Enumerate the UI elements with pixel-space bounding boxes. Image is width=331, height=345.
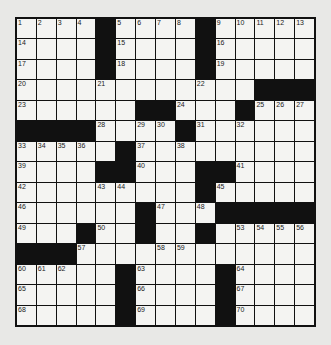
crossword-cell[interactable] <box>156 142 175 161</box>
crossword-cell[interactable] <box>96 285 115 304</box>
crossword-cell[interactable]: 40 <box>136 162 155 181</box>
crossword-cell[interactable] <box>255 142 274 161</box>
crossword-cell[interactable] <box>176 224 195 243</box>
crossword-cell[interactable] <box>156 183 175 202</box>
crossword-cell[interactable] <box>37 224 56 243</box>
crossword-cell[interactable] <box>275 162 294 181</box>
crossword-cell[interactable]: 50 <box>96 224 115 243</box>
crossword-cell[interactable]: 45 <box>216 183 235 202</box>
crossword-cell[interactable] <box>295 162 314 181</box>
crossword-cell[interactable]: 61 <box>37 265 56 284</box>
crossword-cell[interactable] <box>116 101 135 120</box>
crossword-cell[interactable]: 47 <box>156 203 175 222</box>
crossword-cell[interactable] <box>295 306 314 325</box>
crossword-cell[interactable]: 29 <box>136 121 155 140</box>
crossword-cell[interactable]: 12 <box>275 19 294 38</box>
crossword-cell[interactable] <box>275 39 294 58</box>
crossword-cell[interactable]: 2 <box>37 19 56 38</box>
crossword-cell[interactable]: 22 <box>196 80 215 99</box>
crossword-cell[interactable] <box>236 80 255 99</box>
crossword-cell[interactable]: 68 <box>17 306 36 325</box>
crossword-cell[interactable] <box>295 285 314 304</box>
crossword-cell[interactable]: 4 <box>77 19 96 38</box>
crossword-cell[interactable]: 39 <box>17 162 36 181</box>
crossword-cell[interactable] <box>196 244 215 263</box>
crossword-cell[interactable] <box>275 60 294 79</box>
crossword-cell[interactable]: 35 <box>57 142 76 161</box>
crossword-cell[interactable] <box>37 183 56 202</box>
crossword-cell[interactable] <box>156 39 175 58</box>
crossword-cell[interactable] <box>57 101 76 120</box>
crossword-cell[interactable] <box>156 162 175 181</box>
crossword-cell[interactable] <box>57 39 76 58</box>
crossword-cell[interactable]: 33 <box>17 142 36 161</box>
crossword-cell[interactable] <box>275 142 294 161</box>
crossword-cell[interactable] <box>275 285 294 304</box>
crossword-cell[interactable] <box>37 80 56 99</box>
crossword-cell[interactable] <box>156 285 175 304</box>
crossword-cell[interactable]: 13 <box>295 19 314 38</box>
crossword-cell[interactable] <box>116 121 135 140</box>
crossword-cell[interactable]: 7 <box>156 19 175 38</box>
crossword-cell[interactable] <box>77 285 96 304</box>
crossword-cell[interactable] <box>255 121 274 140</box>
crossword-cell[interactable]: 6 <box>136 19 155 38</box>
crossword-cell[interactable] <box>196 101 215 120</box>
crossword-cell[interactable] <box>176 285 195 304</box>
crossword-cell[interactable] <box>57 203 76 222</box>
crossword-cell[interactable] <box>216 80 235 99</box>
crossword-cell[interactable] <box>57 285 76 304</box>
crossword-cell[interactable]: 62 <box>57 265 76 284</box>
crossword-cell[interactable] <box>57 306 76 325</box>
crossword-cell[interactable] <box>156 80 175 99</box>
crossword-cell[interactable]: 18 <box>116 60 135 79</box>
crossword-cell[interactable] <box>295 265 314 284</box>
crossword-cell[interactable]: 37 <box>136 142 155 161</box>
crossword-cell[interactable] <box>255 60 274 79</box>
crossword-cell[interactable]: 48 <box>196 203 215 222</box>
crossword-cell[interactable] <box>57 60 76 79</box>
crossword-cell[interactable]: 8 <box>176 19 195 38</box>
crossword-cell[interactable]: 60 <box>17 265 36 284</box>
crossword-cell[interactable]: 69 <box>136 306 155 325</box>
crossword-cell[interactable] <box>176 162 195 181</box>
crossword-cell[interactable] <box>196 285 215 304</box>
crossword-cell[interactable] <box>255 265 274 284</box>
crossword-cell[interactable]: 27 <box>295 101 314 120</box>
crossword-cell[interactable]: 44 <box>116 183 135 202</box>
crossword-cell[interactable] <box>255 244 274 263</box>
crossword-cell[interactable] <box>236 39 255 58</box>
crossword-cell[interactable] <box>275 244 294 263</box>
crossword-cell[interactable] <box>96 265 115 284</box>
crossword-cell[interactable] <box>295 121 314 140</box>
crossword-cell[interactable]: 9 <box>216 19 235 38</box>
crossword-cell[interactable] <box>176 80 195 99</box>
crossword-cell[interactable] <box>116 224 135 243</box>
crossword-cell[interactable]: 41 <box>236 162 255 181</box>
crossword-cell[interactable] <box>295 60 314 79</box>
crossword-cell[interactable] <box>136 80 155 99</box>
crossword-cell[interactable] <box>156 60 175 79</box>
crossword-cell[interactable]: 5 <box>116 19 135 38</box>
crossword-cell[interactable] <box>196 306 215 325</box>
crossword-cell[interactable]: 28 <box>96 121 115 140</box>
crossword-cell[interactable] <box>216 142 235 161</box>
crossword-cell[interactable]: 23 <box>17 101 36 120</box>
crossword-cell[interactable] <box>96 101 115 120</box>
crossword-cell[interactable] <box>116 244 135 263</box>
crossword-cell[interactable]: 58 <box>156 244 175 263</box>
crossword-cell[interactable]: 66 <box>136 285 155 304</box>
crossword-cell[interactable] <box>295 244 314 263</box>
crossword-cell[interactable] <box>295 183 314 202</box>
crossword-cell[interactable] <box>37 162 56 181</box>
crossword-cell[interactable]: 26 <box>275 101 294 120</box>
crossword-cell[interactable] <box>295 142 314 161</box>
crossword-cell[interactable]: 21 <box>96 80 115 99</box>
crossword-cell[interactable]: 17 <box>17 60 36 79</box>
crossword-cell[interactable]: 31 <box>196 121 215 140</box>
crossword-cell[interactable] <box>77 203 96 222</box>
crossword-cell[interactable]: 10 <box>236 19 255 38</box>
crossword-cell[interactable] <box>77 60 96 79</box>
crossword-cell[interactable] <box>77 101 96 120</box>
crossword-cell[interactable] <box>236 244 255 263</box>
